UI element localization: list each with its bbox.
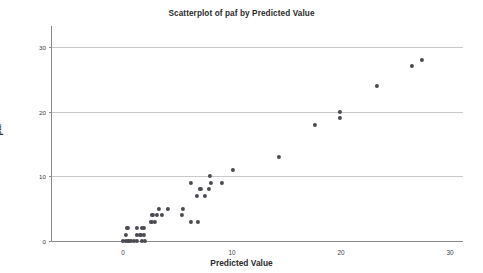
x-axis-line xyxy=(51,241,463,242)
data-point xyxy=(196,219,200,223)
data-point xyxy=(188,219,192,223)
data-point xyxy=(181,207,185,211)
data-point xyxy=(157,207,161,211)
data-point xyxy=(313,122,317,126)
x-tick-label-30: 30 xyxy=(438,249,462,256)
y-tick-label-10: 10 xyxy=(30,173,46,180)
data-point xyxy=(153,219,157,223)
data-point xyxy=(338,116,342,120)
data-point xyxy=(203,194,207,198)
y-tick-mark-20 xyxy=(49,112,52,113)
y-tick-mark-30 xyxy=(49,47,52,48)
x-tick-label-10: 10 xyxy=(220,249,244,256)
data-point xyxy=(410,64,414,68)
y-tick-label-20: 20 xyxy=(30,108,46,115)
chart-title: Scatterplot of paf by Predicted Value xyxy=(0,9,483,18)
data-point xyxy=(142,232,146,236)
x-tick-label-20: 20 xyxy=(329,249,353,256)
data-point xyxy=(209,181,213,185)
data-point xyxy=(180,213,184,217)
data-point xyxy=(188,181,192,185)
gridline-y-10 xyxy=(52,176,463,177)
data-point xyxy=(338,110,342,114)
scatterplot-figure: Scatterplot of paf by Predicted Value pa… xyxy=(0,0,483,273)
data-point xyxy=(420,58,424,62)
y-tick-label-30: 30 xyxy=(30,43,46,50)
plot-area xyxy=(52,26,463,241)
data-point xyxy=(277,155,281,159)
y-tick-label-0: 0 xyxy=(30,238,46,245)
y-tick-mark-0 xyxy=(49,241,52,242)
x-axis-title: Predicted Value xyxy=(0,258,483,268)
data-point xyxy=(195,194,199,198)
data-point xyxy=(231,168,235,172)
data-point xyxy=(124,232,128,236)
data-point xyxy=(142,226,146,230)
data-point xyxy=(207,187,211,191)
y-axis-title: paf xyxy=(0,124,3,136)
data-point xyxy=(155,213,159,217)
gridline-y-30 xyxy=(52,47,463,48)
y-tick-mark-10 xyxy=(49,176,52,177)
data-point xyxy=(160,213,164,217)
data-point xyxy=(125,226,129,230)
gridline-y-20 xyxy=(52,112,463,113)
data-point xyxy=(220,181,224,185)
data-point xyxy=(166,207,170,211)
x-tick-label-0: 0 xyxy=(111,249,135,256)
data-point xyxy=(208,174,212,178)
data-point xyxy=(375,84,379,88)
data-point xyxy=(198,187,202,191)
data-point xyxy=(143,239,147,243)
